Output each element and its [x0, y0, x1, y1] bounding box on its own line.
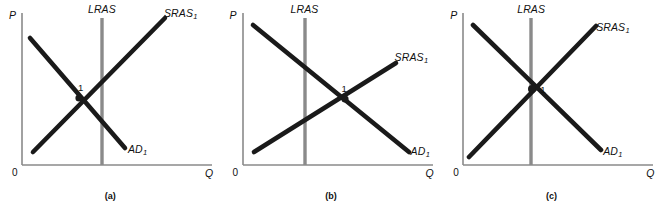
equilibrium-label-c: 1	[540, 85, 545, 95]
lras-label-b: LRAS	[291, 4, 319, 15]
x-axis-label-c: Q	[646, 168, 654, 179]
panel-caption-b: (b)	[221, 192, 442, 201]
y-axis-label-c: P	[450, 10, 457, 21]
y-axis-label-a: P	[9, 10, 16, 21]
equilibrium-label-b: 1	[342, 84, 347, 94]
panel-b-plot	[221, 0, 442, 208]
panel-caption-a: (a)	[0, 192, 221, 201]
lras-label-c: LRAS	[517, 4, 545, 15]
panel-a-plot	[0, 0, 221, 208]
sras1-line-b	[254, 63, 396, 152]
panel-b: P Q 0 LRAS SRAS1 AD1 1 (b)	[221, 0, 442, 208]
ad1-line-a	[30, 38, 125, 148]
panel-caption-c: (c)	[441, 192, 662, 201]
x-axis-label-b: Q	[426, 168, 434, 179]
origin-label-a: 0	[12, 168, 18, 178]
equilibrium-point-a	[75, 94, 82, 101]
sras1-label-c: SRAS1	[596, 22, 629, 33]
ad-as-figure: P Q 0 LRAS SRAS1 AD1 1 (a) P Q 0 LRAS SR…	[0, 0, 662, 208]
lras-label-a: LRAS	[88, 4, 116, 15]
origin-label-c: 0	[453, 168, 459, 178]
panel-a: P Q 0 LRAS SRAS1 AD1 1 (a)	[0, 0, 221, 208]
sras1-label-a: SRAS1	[164, 8, 197, 19]
equilibrium-point-b	[341, 95, 348, 102]
y-axis-label-b: P	[230, 10, 237, 21]
ad1-label-c: AD1	[603, 146, 622, 157]
ad1-label-a: AD1	[128, 144, 147, 155]
panel-c: P Q 0 LRAS SRAS1 AD1 1 (c)	[441, 0, 662, 208]
equilibrium-point-c	[528, 85, 536, 93]
x-axis-label-a: Q	[205, 168, 213, 179]
sras1-line-a	[33, 18, 165, 152]
ad1-line-b	[253, 25, 409, 152]
equilibrium-label-a: 1	[78, 83, 83, 93]
sras1-label-b: SRAS1	[395, 52, 428, 63]
origin-label-b: 0	[233, 168, 239, 178]
ad1-label-b: AD1	[411, 146, 430, 157]
